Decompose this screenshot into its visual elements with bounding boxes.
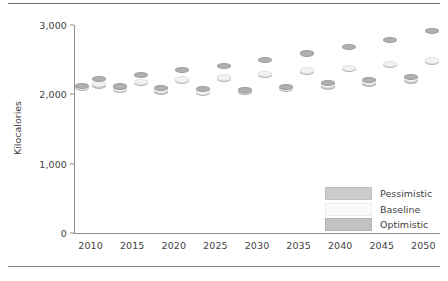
y-axis-tick-mark <box>70 25 74 26</box>
legend-swatch-baseline <box>325 203 372 216</box>
legend-label-pessimistic: Pessimistic <box>380 188 432 199</box>
y-axis-tick-mark <box>70 233 74 234</box>
data-point-optimistic <box>383 36 397 42</box>
x-axis-tick-label: 2025 <box>203 240 228 251</box>
x-axis-tick-label: 2030 <box>245 240 270 251</box>
x-axis-spine <box>74 233 440 234</box>
top-rule <box>8 3 440 4</box>
data-point-optimistic <box>300 50 314 56</box>
y-axis-tick-label: 3,000 <box>39 20 74 31</box>
x-axis-tick-label: 2050 <box>411 240 436 251</box>
data-point-optimistic <box>134 72 148 78</box>
y-axis-label: Kilocalories <box>12 101 23 155</box>
data-point-optimistic <box>175 67 189 73</box>
x-axis-tick-label: 2010 <box>78 240 103 251</box>
data-point-optimistic <box>217 62 231 68</box>
legend-item-optimistic: Optimistic <box>325 217 445 233</box>
x-axis-tick-label: 2045 <box>369 240 394 251</box>
x-axis-tick-label: 2020 <box>162 240 187 251</box>
y-axis-tick-label: 1,000 <box>39 158 74 169</box>
legend-label-baseline: Baseline <box>380 204 420 215</box>
data-point-optimistic <box>258 57 272 63</box>
data-point-optimistic <box>425 28 439 34</box>
bottom-rule <box>8 266 440 267</box>
y-axis-tick-label: 2,000 <box>39 89 74 100</box>
legend-item-pessimistic: Pessimistic <box>325 186 445 202</box>
figure: Kilocalories 01,0002,0003,00020102015202… <box>0 0 448 281</box>
y-axis-tick-mark <box>70 94 74 95</box>
y-axis-tick-mark <box>70 163 74 164</box>
legend-swatch-pessimistic <box>325 187 372 200</box>
legend-label-optimistic: Optimistic <box>380 219 428 230</box>
x-axis-tick-label: 2040 <box>328 240 353 251</box>
x-axis-tick-label: 2035 <box>286 240 311 251</box>
x-axis-tick-label: 2015 <box>120 240 145 251</box>
legend-item-baseline: Baseline <box>325 202 445 218</box>
chart-legend: Pessimistic Baseline Optimistic <box>325 186 445 233</box>
legend-swatch-optimistic <box>325 218 372 231</box>
data-point-optimistic <box>342 44 356 50</box>
